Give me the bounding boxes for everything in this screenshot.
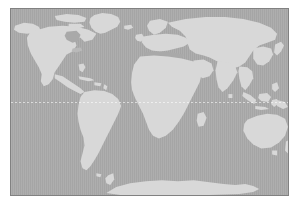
landmass-cuba	[79, 76, 95, 81]
landmass-arctic-archipelago	[55, 14, 87, 23]
landmass-antarctic-peninsula	[105, 173, 114, 185]
landmass-new-guinea	[277, 100, 288, 109]
landmass-south-america	[78, 90, 122, 170]
landmass-greenland	[89, 13, 120, 34]
landmass-layer	[11, 9, 288, 195]
landmass-florida	[79, 63, 86, 72]
landmass-east-asia-coast	[253, 47, 273, 66]
landmass-sumatra	[242, 92, 256, 104]
map-frame	[10, 8, 289, 196]
landmass-sri-lanka	[228, 94, 232, 98]
landmass-iceland	[124, 25, 133, 30]
landmass-india	[216, 61, 238, 92]
landmass-europe	[142, 34, 190, 52]
landmass-africa	[131, 56, 201, 139]
landmass-borneo	[258, 93, 271, 102]
landmass-hispaniola	[94, 82, 101, 86]
landmass-madagascar	[197, 112, 207, 127]
landmass-antarctica	[106, 180, 259, 195]
world-map-figure	[0, 0, 302, 209]
landmass-java	[255, 106, 269, 110]
landmass-scandinavia	[147, 19, 168, 35]
landmass-falklands	[96, 173, 101, 177]
landmass-japan	[274, 42, 284, 56]
landmass-new-zealand	[285, 141, 288, 154]
landmass-southeast-asia	[238, 66, 253, 90]
landmass-sulawesi	[271, 99, 278, 107]
landmass-tasmania	[272, 150, 277, 155]
landmass-australia	[243, 114, 288, 149]
landmass-lesser-antilles	[103, 84, 107, 90]
landmass-philippines	[272, 82, 279, 92]
